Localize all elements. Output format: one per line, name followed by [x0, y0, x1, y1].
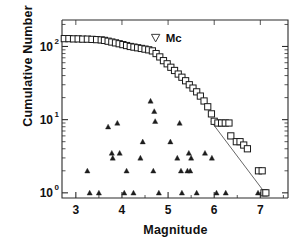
- y-tick-label-exponent: 2: [55, 37, 60, 46]
- fit-line-segment: [211, 121, 265, 193]
- incremental-point: [151, 168, 156, 173]
- x-tick-label: 5: [165, 203, 172, 217]
- x-axis-label: Magnitude: [62, 220, 289, 238]
- incremental-point: [85, 168, 90, 173]
- mc-annotation: Mc: [151, 32, 182, 44]
- incremental-point: [177, 120, 182, 125]
- incremental-point: [140, 139, 145, 144]
- incremental-point: [110, 155, 115, 160]
- tick-labels: 34567100101102: [40, 37, 264, 217]
- y-tick-label: 10: [40, 186, 54, 200]
- incremental-point: [153, 119, 158, 124]
- cumulative-point: [226, 120, 232, 126]
- incremental-point: [209, 155, 214, 160]
- incremental-point: [131, 190, 136, 195]
- incremental-point: [117, 150, 122, 155]
- y-tick-label: 10: [40, 113, 54, 127]
- incremental-point: [175, 155, 180, 160]
- incremental-point: [96, 190, 101, 195]
- axes-frame: [62, 20, 288, 198]
- incremental-point: [152, 109, 157, 114]
- incremental-point: [106, 124, 111, 129]
- y-axis-label: Cumulative Number: [18, 0, 38, 146]
- incremental-point: [168, 139, 173, 144]
- cumulative-number-series: [61, 36, 269, 196]
- y-tick-label: 10: [40, 40, 54, 54]
- y-tick-label-exponent: 1: [55, 110, 60, 119]
- axis-left-bottom: [62, 20, 288, 198]
- y-axis-label-text: Cumulative Number: [21, 5, 35, 126]
- gutenberg-richter-fit-line: [211, 121, 265, 193]
- incremental-point: [189, 155, 194, 160]
- figure-container: Mc 34567100101102 Cumulative Number Magn…: [0, 0, 302, 243]
- x-tick-label: 3: [72, 203, 79, 217]
- mc-label: Mc: [166, 32, 183, 44]
- x-tick-label: 4: [119, 203, 126, 217]
- mc-marker-icon: [151, 34, 159, 42]
- x-tick-label: 6: [211, 203, 218, 217]
- cumulative-point: [244, 146, 250, 152]
- cumulative-point: [205, 104, 211, 110]
- y-tick-label-exponent: 0: [55, 183, 60, 192]
- incremental-point: [138, 155, 143, 160]
- cumulative-point: [201, 98, 207, 104]
- cumulative-point: [263, 190, 269, 196]
- incremental-point: [178, 168, 183, 173]
- cumulative-point: [228, 133, 234, 139]
- incremental-point: [202, 150, 207, 155]
- incremental-point: [223, 190, 228, 195]
- incremental-point: [194, 190, 199, 195]
- x-axis-label-text: Magnitude: [143, 223, 207, 237]
- axis-top-right: [62, 20, 288, 198]
- cumulative-point: [259, 168, 265, 174]
- incremental-point: [156, 190, 161, 195]
- x-tick-label: 7: [257, 203, 264, 217]
- frequency-magnitude-plot: Mc 34567100101102: [0, 0, 302, 243]
- incremental-point: [186, 150, 191, 155]
- incremental-point: [87, 190, 92, 195]
- incremental-number-series: [85, 98, 261, 195]
- incremental-point: [179, 190, 184, 195]
- cumulative-point: [208, 111, 214, 117]
- incremental-point: [115, 120, 120, 125]
- axis-ticks: [62, 20, 288, 198]
- incremental-point: [109, 150, 114, 155]
- incremental-point: [124, 168, 129, 173]
- incremental-point: [148, 98, 153, 103]
